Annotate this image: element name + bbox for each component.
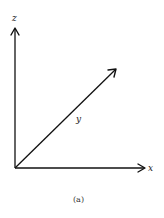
y-axis-label: y	[75, 114, 82, 124]
coordinate-axes-diagram: z x y (a)	[0, 0, 164, 218]
z-axis-label: z	[11, 13, 17, 23]
figure-caption: (a)	[73, 195, 84, 204]
x-axis-label: x	[148, 163, 153, 173]
z-axis: z	[11, 13, 19, 168]
y-axis: y	[15, 69, 116, 168]
x-axis: x	[15, 163, 153, 173]
